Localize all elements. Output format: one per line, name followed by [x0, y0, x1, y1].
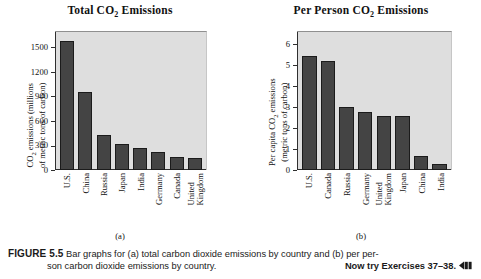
bar [133, 148, 147, 170]
bar [60, 41, 74, 170]
y-tick-label: 5 [286, 60, 297, 70]
chart-b-x-axis-labels: U.S.CanadaRussiaGermanyUnitedKingdomJapa… [297, 171, 452, 229]
bar [414, 156, 429, 170]
bar [358, 112, 373, 170]
x-label-slot: U.S. [300, 171, 319, 229]
x-tick-label: India [436, 173, 445, 191]
x-tick-label: U.S. [305, 173, 314, 188]
x-tick-label: Russia [99, 173, 108, 196]
bar [170, 157, 184, 170]
x-label-slot: China [76, 171, 94, 229]
x-tick-label: Germany [361, 173, 370, 205]
bar-slot [393, 32, 412, 170]
chart-a-x-axis-labels: U.S.ChinaRussiaJapanIndiaGermanyCanadaUn… [55, 171, 207, 229]
x-label-slot: UnitedKingdom [187, 171, 205, 229]
x-tick-label: China [417, 173, 426, 194]
x-label-slot: China [413, 171, 432, 229]
panel-a-label: (a) [0, 231, 240, 241]
chart-panel-b: Per Person CO2 Emissions Per capita CO2 … [241, 0, 481, 246]
bar [151, 152, 165, 170]
y-tick-label: 2 [286, 123, 297, 133]
bar-slot [356, 32, 375, 170]
bar-slot [131, 32, 149, 170]
chart-a-plot-area: 030060090012001500 [55, 31, 207, 170]
y-tick-label: 6 [286, 39, 297, 49]
x-tick-label: India [136, 173, 145, 191]
bar [302, 56, 317, 170]
bar [395, 116, 410, 170]
x-tick-label: Russia [342, 173, 351, 196]
bar-slot [58, 32, 76, 170]
y-tick-label: 300 [35, 140, 55, 150]
bar-slot [168, 32, 186, 170]
figure-graphic: Total CO2 Emissions CO2 emissions (milli… [0, 0, 481, 246]
x-tick-label: Japan [118, 173, 127, 193]
y-tick-label: 900 [35, 91, 55, 101]
bar-slot [412, 32, 431, 170]
bar [115, 144, 129, 170]
bar-slot [375, 32, 394, 170]
bar [321, 61, 336, 171]
caption-line-1: FIGURE 5.5 Bar graphs for (a) total carb… [8, 248, 473, 260]
x-label-slot: Russia [95, 171, 113, 229]
chart-a-bars [55, 32, 206, 170]
bar-slot [430, 32, 449, 170]
bar-slot [95, 32, 113, 170]
x-label-slot: Canada [168, 171, 186, 229]
x-label-slot: U.S. [58, 171, 76, 229]
bar [377, 116, 392, 170]
figure-number-label: FIGURE 5.5 [8, 248, 63, 259]
x-tick-label: Canada [324, 173, 333, 199]
figure-caption: FIGURE 5.5 Bar graphs for (a) total carb… [0, 248, 481, 279]
chart-panel-a: Total CO2 Emissions CO2 emissions (milli… [0, 0, 240, 246]
panel-b-label: (b) [241, 231, 481, 241]
y-tick-label: 600 [35, 116, 55, 126]
x-tick-label: China [81, 173, 90, 194]
bar [78, 92, 92, 170]
y-tick-label: 1200 [31, 67, 55, 77]
y-tick-label: 3 [286, 102, 297, 112]
y-tick-label: 1 [286, 144, 297, 154]
x-label-slot: Germany [356, 171, 375, 229]
chart-b-title: Per Person CO2 Emissions [241, 4, 481, 19]
x-tick-label: Japan [399, 173, 408, 193]
chart-b-bars [297, 32, 451, 170]
x-label-slot: Japan [113, 171, 131, 229]
y-tick-label: 0 [44, 165, 55, 175]
back-arrow-icon [459, 261, 472, 273]
x-label-slot: Germany [150, 171, 168, 229]
caption-text-line-1: Bar graphs for (a) total carbon dioxide … [66, 249, 379, 259]
bar-slot [76, 32, 94, 170]
x-tick-label: UnitedKingdom [187, 173, 205, 205]
bar-slot [337, 32, 356, 170]
x-label-slot: Canada [319, 171, 338, 229]
x-label-slot: Russia [338, 171, 357, 229]
x-label-slot: India [132, 171, 150, 229]
x-tick-label: UnitedKingdom [375, 173, 393, 205]
bar-slot [186, 32, 204, 170]
bar [188, 158, 202, 170]
caption-line-2: son carbon dioxide emissions by country. [47, 260, 347, 272]
bar-slot [113, 32, 131, 170]
bar-slot [149, 32, 167, 170]
x-tick-label: U.S. [63, 173, 72, 188]
bar [339, 107, 354, 170]
bar [97, 135, 111, 170]
now-try-exercises: Now try Exercises 37–38. [345, 260, 472, 273]
x-label-slot: UnitedKingdom [375, 171, 394, 229]
bar-slot [300, 32, 319, 170]
y-tick-label: 1500 [31, 42, 55, 52]
x-label-slot: India [431, 171, 450, 229]
now-try-label: Now try Exercises 37–38. [345, 261, 456, 271]
bar-slot [319, 32, 338, 170]
y-tick-label: 4 [286, 81, 297, 91]
bar [432, 164, 447, 170]
x-label-slot: Japan [394, 171, 413, 229]
chart-b-plot-area: 0123456 [297, 31, 452, 170]
x-tick-label: Canada [173, 173, 182, 199]
chart-a-title: Total CO2 Emissions [0, 4, 240, 19]
y-tick-label: 0 [286, 165, 297, 175]
x-tick-label: Germany [155, 173, 164, 205]
